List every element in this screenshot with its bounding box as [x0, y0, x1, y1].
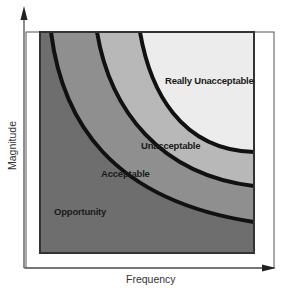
label-unacceptable: Unacceptable [141, 140, 200, 151]
label-really-unacceptable: Really Unacceptable [165, 75, 254, 86]
x-axis-label: Frequency [126, 273, 176, 285]
label-acceptable: Acceptable [101, 168, 150, 179]
label-opportunity: Opportunity [54, 206, 107, 217]
y-axis-label: Magnitude [6, 121, 18, 170]
y-axis-arrow-icon [21, 6, 28, 20]
risk-diagram: Really Unacceptable Unacceptable Accepta… [0, 0, 284, 294]
